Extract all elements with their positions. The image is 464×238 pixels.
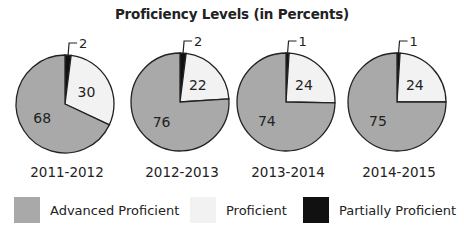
legend-swatch-proficient xyxy=(190,197,216,223)
legend-item-advanced-proficient: Advanced Proficient xyxy=(14,197,179,223)
slice-value-label: 24 xyxy=(295,77,313,93)
slice-value-label: 1 xyxy=(410,34,418,49)
pie-2013-2014: 124742013-2014 xyxy=(237,34,335,180)
slice-value-label: 1 xyxy=(299,34,307,49)
slice-value-label: 75 xyxy=(369,113,387,129)
legend-item-partially-proficient: Partially Proficient xyxy=(303,197,456,223)
slice-value-label: 2 xyxy=(194,34,202,49)
pie-year-label: 2014-2015 xyxy=(362,164,436,180)
leader-line xyxy=(68,43,77,55)
legend-swatch-advanced-proficient xyxy=(14,197,40,223)
pie-year-label: 2011-2012 xyxy=(30,164,104,180)
slice-value-label: 22 xyxy=(189,77,207,93)
legend-swatch-partially-proficient xyxy=(303,197,329,223)
pie-year-label: 2013-2014 xyxy=(251,164,325,180)
pie-2011-2012: 230682011-2012 xyxy=(16,36,114,180)
legend-label: Proficient xyxy=(226,203,287,218)
legend-label: Advanced Proficient xyxy=(50,203,179,218)
slice-value-label: 24 xyxy=(406,77,424,93)
legend-label: Partially Proficient xyxy=(339,203,456,218)
legend-item-proficient: Proficient xyxy=(190,197,287,223)
pie-charts: 230682011-2012222762012-2013124742013-20… xyxy=(0,0,464,195)
pie-year-label: 2012-2013 xyxy=(145,164,219,180)
slice-value-label: 68 xyxy=(33,110,51,126)
leader-line xyxy=(399,41,408,53)
slice-value-label: 76 xyxy=(153,114,171,130)
pie-2014-2015: 124752014-2015 xyxy=(348,34,446,180)
slice-value-label: 74 xyxy=(258,113,276,129)
slice-value-label: 30 xyxy=(78,84,96,100)
slice-value-label: 2 xyxy=(79,36,87,51)
legend: Advanced Proficient Proficient Partially… xyxy=(0,197,464,231)
leader-line xyxy=(183,41,192,53)
pie-2012-2013: 222762012-2013 xyxy=(131,34,229,180)
leader-line xyxy=(288,41,297,53)
